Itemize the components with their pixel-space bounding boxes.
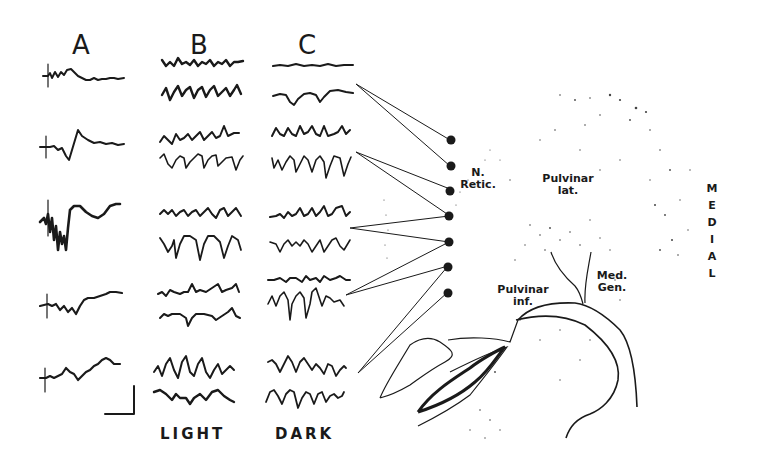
trace-c-row4-top (268, 276, 350, 282)
trace-c-row1-top (273, 64, 353, 66)
trace-b-row2-top (160, 126, 239, 144)
recording-site-6 (444, 263, 453, 272)
trace-c-row2-top (272, 126, 350, 136)
trace-row-2 (40, 126, 351, 178)
label-pulvinar-lat: Pulvinar lat. (540, 173, 596, 197)
trace-a-row3 (40, 204, 120, 250)
scale-bar (105, 386, 134, 414)
trace-b-row4-top (158, 284, 239, 296)
trace-a-row4 (40, 292, 122, 314)
trace-b-row4-bottom (160, 308, 240, 326)
trace-c-row2-bottom (272, 156, 351, 178)
trace-c-row5-bottom (266, 390, 344, 408)
label-pulvinar-inf: Pulvinar inf. (495, 284, 551, 308)
orientation-label-medial: M E D I A L (706, 180, 718, 282)
recording-sites (444, 136, 456, 298)
trace-row-5 (40, 356, 346, 408)
trace-b-row1-top (162, 58, 243, 66)
med-gen-vessel-left (551, 252, 583, 304)
recording-site-4 (445, 212, 454, 221)
trace-b-row1-bottom (162, 85, 241, 100)
trace-c-row5-top (268, 356, 346, 376)
recording-site-5 (445, 238, 454, 247)
outline-inner (516, 316, 618, 438)
outline-upper (518, 303, 637, 407)
trace-c-row3-bottom (270, 238, 350, 252)
trace-b-row3-top (160, 208, 241, 218)
outline-bridge (448, 320, 518, 342)
recording-site-1 (447, 136, 456, 145)
label-n-retic: N. Retic. (458, 167, 498, 191)
recording-site-7 (444, 289, 453, 298)
trace-a-row1 (43, 69, 124, 80)
trace-row-4 (40, 276, 350, 326)
trace-b-row5-bottom (154, 390, 234, 404)
recording-site-2 (447, 162, 456, 171)
recording-site-3 (446, 187, 455, 196)
outline-hippocampus-thick (418, 347, 505, 412)
trace-b-row5-top (154, 356, 234, 378)
trace-row-3 (40, 200, 350, 260)
recording-traces (0, 0, 759, 469)
trace-a-row5 (40, 358, 120, 380)
label-med-gen: Med. Gen. (594, 270, 630, 294)
brain-section-stipple (383, 94, 690, 439)
site-connection-lines (346, 84, 450, 373)
outline-hippocampus-thin (418, 347, 507, 426)
trace-row-1 (43, 58, 353, 105)
trace-b-row3-bottom (160, 236, 241, 260)
trace-a-row2 (40, 130, 124, 160)
med-gen-vessel-right (585, 252, 591, 303)
trace-c-row3-top (270, 206, 350, 218)
trace-b-row2-bottom (160, 154, 243, 170)
trace-c-row4-bottom (268, 288, 344, 320)
trace-c-row1-bottom (273, 90, 353, 105)
